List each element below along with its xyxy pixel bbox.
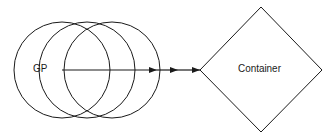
diagram-canvas: GP Container: [0, 0, 333, 136]
container-label: Container: [238, 62, 281, 74]
diagram-graphics: [0, 0, 333, 136]
gp-label: GP: [33, 62, 47, 74]
